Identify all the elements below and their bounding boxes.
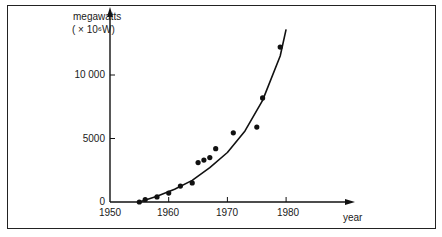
data-point (201, 158, 206, 163)
data-point (190, 180, 195, 185)
data-point (231, 130, 236, 135)
x-tick-1980: 1980 (268, 208, 308, 218)
x-tick-1950: 1950 (90, 208, 130, 218)
x-tick-1960: 1960 (148, 208, 188, 218)
data-point (137, 199, 142, 204)
data-point (260, 95, 265, 100)
y-tick-0: 0 (45, 197, 105, 207)
fit-curve (139, 29, 286, 202)
x-axis-label: year (343, 213, 362, 223)
y-axis-unit: ( × 10⁶W) (72, 25, 115, 35)
data-point (143, 197, 148, 202)
y-tick-10000: 10 000 (45, 70, 105, 80)
x-tick-1970: 1970 (207, 208, 247, 218)
data-point (213, 146, 218, 151)
y-axis-label: megawatts (73, 12, 121, 22)
data-point (154, 194, 159, 199)
data-point (166, 191, 171, 196)
data-point (207, 155, 212, 160)
data-point (278, 45, 283, 50)
data-point (196, 160, 201, 165)
data-point (254, 125, 259, 130)
x-axis-arrow-icon (345, 199, 355, 205)
data-point (178, 184, 183, 189)
y-tick-5000: 5000 (45, 134, 105, 144)
